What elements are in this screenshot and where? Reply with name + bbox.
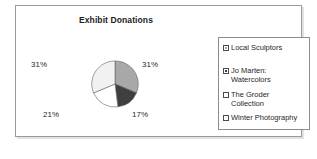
legend-swatch-gray-icon [223, 45, 229, 51]
pie-label-bottom-left: 21% [43, 110, 59, 119]
chart-title: Exhibit Donations [16, 15, 216, 25]
pie-chart[interactable] [91, 60, 139, 108]
legend-item-local-sculptors[interactable]: Local Sculptors [223, 43, 306, 53]
legend-swatch-light-icon [223, 115, 229, 121]
legend-item-jo-marten[interactable]: Jo Marten: Watercolors [223, 66, 306, 85]
legend-item-groder-collection[interactable]: The Groder Collection [223, 90, 306, 109]
legend-swatch-white-icon [223, 92, 229, 98]
legend-label-groder-collection: The Groder Collection [231, 90, 269, 109]
legend-label-local-sculptors: Local Sculptors [231, 43, 282, 53]
legend-item-winter-photography[interactable]: Winter Photography [223, 113, 306, 123]
chart-container: Exhibit Donations 31% 31% 21% 17% Local … [15, 5, 302, 137]
legend-label-jo-marten: Jo Marten: Watercolors [231, 66, 271, 85]
pie-label-top-left: 31% [31, 60, 47, 69]
chart-legend: Local Sculptors Jo Marten: Watercolors T… [218, 37, 310, 130]
legend-swatch-dark-icon [223, 68, 229, 74]
legend-label-winter-photography: Winter Photography [231, 113, 297, 123]
pie-label-bottom-right: 17% [132, 110, 148, 119]
pie-label-top-right: 31% [142, 60, 158, 69]
pie-plot-area: 31% 31% 21% 17% [64, 53, 164, 123]
